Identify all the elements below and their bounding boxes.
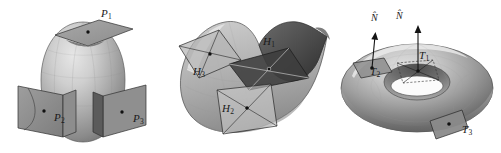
panel-saddle: H1 H3 H2 <box>167 0 334 153</box>
tangent-point-p2 <box>42 109 45 112</box>
label-p1: P1 <box>101 8 111 19</box>
label-p2: P2 <box>54 112 64 123</box>
label-t2: T2 <box>370 66 380 77</box>
tangent-point-t3 <box>447 122 451 126</box>
torus-surface <box>341 44 493 132</box>
tangent-point-h3 <box>208 52 211 55</box>
panel-ellipsoid: P1 P2 P3 <box>0 0 167 153</box>
label-h1: H1 <box>263 36 275 47</box>
tangent-point-h2 <box>245 106 249 110</box>
label-t1: T1 <box>419 50 429 61</box>
label-p3: P3 <box>133 113 143 124</box>
tangent-point-p1 <box>86 30 89 33</box>
tangent-point-h1 <box>267 67 271 71</box>
label-h2: H2 <box>222 103 234 114</box>
label-t3: T3 <box>462 124 472 135</box>
ellipsoid-drawing <box>0 0 167 153</box>
normal-label-t1: N̂ <box>396 11 403 21</box>
math-figure-three-surfaces: P1 P2 P3 <box>0 0 501 153</box>
normal-label-t2: N̂ <box>371 13 378 23</box>
label-h3: H3 <box>193 66 205 77</box>
tangent-plane-p2 <box>18 86 76 137</box>
tangent-point-p3 <box>120 110 123 113</box>
panel-torus: N̂ N̂ T1 T2 T3 <box>334 0 501 153</box>
torus-drawing <box>334 0 501 153</box>
